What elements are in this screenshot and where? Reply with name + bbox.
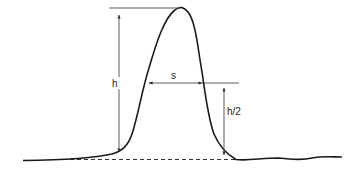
half-height-label: h/2 (227, 106, 241, 117)
height-label: h (112, 78, 118, 89)
peak-diagram-svg: h s h/2 (0, 0, 357, 170)
peak-curve (23, 8, 342, 161)
width-label: s (171, 70, 176, 81)
peak-diagram: h s h/2 (0, 0, 357, 170)
